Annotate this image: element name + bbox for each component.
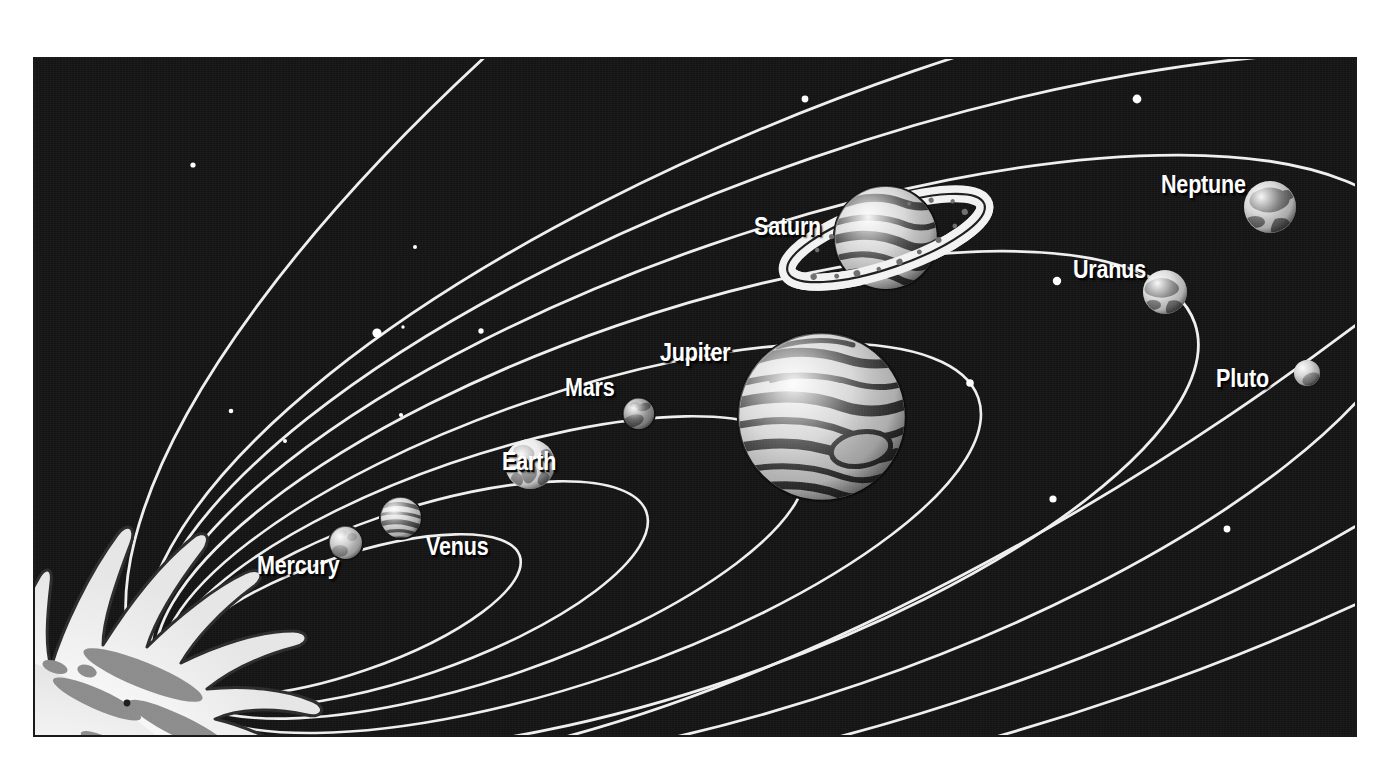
label-mars: Mars [565, 375, 615, 400]
star [1049, 495, 1056, 502]
planet-uranus [1143, 270, 1187, 315]
orbit-paths [35, 59, 1355, 735]
star [413, 245, 417, 249]
label-venus: Venus [426, 534, 488, 559]
star [401, 325, 404, 328]
star [1053, 277, 1061, 285]
orbit-mars [117, 263, 1025, 735]
star [229, 409, 234, 414]
planet-pluto [1294, 360, 1322, 388]
star [966, 379, 974, 387]
label-pluto: Pluto [1216, 366, 1269, 391]
orbit-neptune [42, 59, 1355, 735]
star [802, 96, 809, 103]
label-uranus: Uranus [1073, 257, 1146, 282]
label-earth: Earth [502, 449, 556, 474]
star [399, 413, 403, 417]
star [283, 439, 287, 443]
solar-system-illustration: Mercury Venus Earth Mars Jupiter Saturn … [0, 0, 1386, 763]
star [190, 162, 195, 167]
label-saturn: Saturn [754, 214, 821, 239]
label-mercury: Mercury [257, 553, 339, 578]
label-neptune: Neptune [1161, 172, 1246, 197]
planet-neptune [1244, 181, 1296, 236]
planet-jupiter [735, 333, 907, 501]
star [478, 328, 483, 333]
star [1133, 95, 1142, 104]
star [1224, 526, 1231, 533]
planet-mars [621, 398, 655, 430]
orbit-pluto [35, 59, 1355, 735]
orbits-and-sun-layer [35, 59, 1355, 735]
diagram-frame: Mercury Venus Earth Mars Jupiter Saturn … [33, 57, 1357, 737]
star [372, 328, 381, 337]
label-jupiter: Jupiter [660, 340, 730, 365]
planet-venus [379, 497, 423, 543]
orbit-uranus [59, 59, 1355, 735]
